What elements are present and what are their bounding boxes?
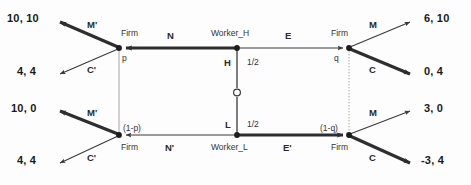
payoff-bottom-left-upper: 10, 0: [11, 103, 36, 114]
payoff-bottom-right-lower: -3, 4: [421, 155, 444, 166]
payoff-top-left-lower: 4, 4: [17, 66, 36, 77]
edge-label-M-prime-top: M': [87, 20, 97, 30]
edge-label-nature-high: H: [224, 58, 231, 68]
node-label-worker-h: Worker_H: [211, 29, 249, 38]
payoff-top-left-upper: 10, 10: [7, 13, 39, 24]
node-label-worker-l: Worker_L: [211, 143, 248, 152]
node-firm-bottom-left: [116, 132, 122, 138]
payoff-top-right-lower: 0, 4: [424, 66, 443, 77]
edge-label-nature-low: L: [225, 120, 231, 130]
edge-label-C-prime-bottom: C': [87, 153, 96, 163]
game-tree-figure: 10, 10 4, 4 10, 0 4, 4 6, 10 0, 4 3, 0 -…: [0, 0, 471, 185]
belief-p: p: [122, 54, 127, 63]
payoff-bottom-right-upper: 3, 0: [424, 103, 443, 114]
payoff-bottom-left-lower: 4, 4: [17, 155, 36, 166]
edge-label-M-top: M: [369, 20, 377, 30]
node-label-firm-top-left: Firm: [121, 29, 138, 38]
node-firm-top-right: [346, 45, 352, 51]
edge-label-M-prime-bottom: M': [87, 108, 97, 118]
node-label-firm-bottom-right: Firm: [331, 143, 348, 152]
belief-q: q: [334, 54, 339, 63]
node-label-firm-top-right: Firm: [331, 29, 348, 38]
node-firm-bottom-right: [346, 132, 352, 138]
edge-label-C-bottom: C: [369, 153, 376, 163]
edge-label-E-prime: E': [283, 143, 292, 153]
edge-label-N: N: [167, 31, 174, 41]
edge-M-top: [350, 22, 410, 47]
edge-label-E: E: [285, 31, 291, 41]
prob-nature-high: 1/2: [247, 58, 259, 67]
edge-label-C-prime-top: C': [87, 65, 96, 75]
edge-label-N-prime: N': [165, 143, 174, 153]
payoff-top-right-upper: 6, 10: [424, 13, 449, 24]
edge-label-C-top: C: [369, 65, 376, 75]
prob-nature-low: 1/2: [247, 120, 259, 129]
node-label-firm-bottom-left: Firm: [121, 143, 138, 152]
node-worker-l: [234, 132, 240, 138]
edge-C-bottom: [350, 136, 410, 163]
edge-C-top: [350, 49, 410, 74]
edge-M-bottom: [350, 111, 410, 134]
node-firm-top-left: [116, 45, 122, 51]
belief-one-minus-q: (1-q): [320, 124, 338, 133]
node-nature-chance: [234, 89, 241, 96]
edge-label-M-bottom: M: [369, 108, 377, 118]
node-worker-h: [234, 45, 240, 51]
belief-one-minus-p: (1-p): [123, 124, 141, 133]
